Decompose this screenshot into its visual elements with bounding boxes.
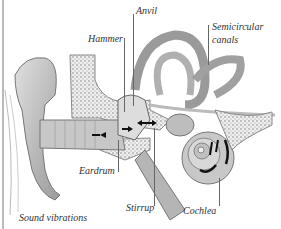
label-sound-vibrations: Sound vibrations — [19, 212, 87, 223]
stirrup-leader — [154, 128, 155, 206]
label-anvil: Anvil — [136, 5, 157, 16]
label-stirrup: Stirrup — [126, 202, 154, 213]
label-cochlea: Cochlea — [183, 205, 216, 216]
ear-diagram: Anvil Hammer Semicircular canals Eardrum… — [0, 0, 281, 229]
hammer-leader — [124, 38, 125, 112]
label-eardrum: Eardrum — [79, 165, 115, 176]
cochlea-leader — [219, 178, 220, 206]
ear-illustration — [0, 0, 281, 229]
label-canals: canals — [212, 34, 238, 45]
anvil-leader — [133, 14, 134, 106]
label-hammer: Hammer — [88, 33, 123, 44]
label-semicircular: Semicircular — [212, 21, 263, 32]
semicircular-leader — [208, 25, 209, 65]
eardrum-leader — [118, 140, 119, 172]
